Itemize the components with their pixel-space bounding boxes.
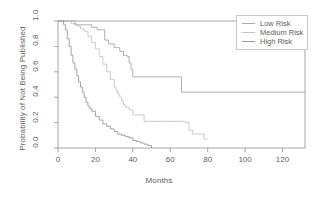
legend-label: Medium Risk <box>260 28 303 37</box>
legend-line-swatch-icon <box>242 41 255 42</box>
y-tick-label: 0.2 <box>31 111 40 133</box>
x-tick-label: 80 <box>196 155 220 164</box>
x-tick-label: 100 <box>233 155 257 164</box>
legend-line-swatch-icon <box>242 23 255 24</box>
legend-label: High Risk <box>260 37 292 46</box>
legend-label: Low Risk <box>260 19 290 28</box>
y-tick-label: 0.0 <box>31 137 40 159</box>
y-tick-label: 1.0 <box>31 10 40 32</box>
legend-item: Medium Risk <box>237 28 307 37</box>
x-tick-label: 0 <box>46 155 70 164</box>
series-line-medium-risk <box>58 21 208 139</box>
x-tick-label: 120 <box>271 155 295 164</box>
chart-legend: Low RiskMedium RiskHigh Risk <box>236 15 308 50</box>
survival-chart-figure: Probability of Not Being Published Month… <box>0 0 318 199</box>
legend-item: Low Risk <box>237 19 307 28</box>
legend-item: High Risk <box>237 37 307 46</box>
x-tick-label: 40 <box>121 155 145 164</box>
x-tick-label: 60 <box>158 155 182 164</box>
y-tick-label: 0.4 <box>31 86 40 108</box>
y-axis-title: Probability of Not Being Published <box>18 19 27 159</box>
x-axis-title: Months <box>0 176 318 185</box>
y-tick-label: 0.6 <box>31 60 40 82</box>
y-tick-label: 0.8 <box>31 35 40 57</box>
legend-line-swatch-icon <box>242 32 255 33</box>
x-tick-label: 20 <box>83 155 107 164</box>
